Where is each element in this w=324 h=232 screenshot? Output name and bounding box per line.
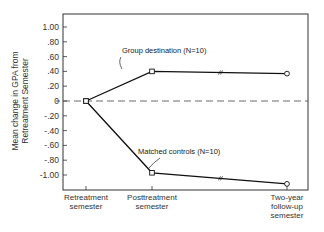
y-axis-title: Mean change in GPA from Retreatment Seme…: [10, 51, 30, 150]
y-tick-label: -.60: [44, 140, 59, 150]
chart: 1.00.80.60.40.200-.20-.40-.60-.80-1.00 R…: [0, 0, 324, 232]
y-tick-label: .60: [47, 52, 59, 62]
y-tick-label: 1.00: [42, 22, 59, 32]
data-point-marker: [285, 181, 290, 186]
x-tick-label: semester: [271, 211, 304, 220]
series-line-0: [86, 71, 287, 101]
y-tick-label: .20: [47, 81, 59, 91]
annotation-group-destination: Group destination (N=10): [122, 46, 207, 55]
series-line-1: [86, 101, 287, 184]
y-tick-label: .80: [47, 37, 59, 47]
y-tick-label: -.20: [44, 111, 59, 121]
data-point-marker: [285, 71, 290, 76]
y-tick-label: .40: [47, 66, 59, 76]
y-tick-label: -1.00: [40, 170, 60, 180]
x-axis: RetreatmentsemesterPosttreatmentsemester…: [64, 186, 304, 220]
annotation-arrow-matched-controls: [148, 158, 160, 169]
y-tick-label: -.80: [44, 155, 59, 165]
x-tick-label: Two-year: [271, 193, 304, 202]
y-tick-label: -.40: [44, 126, 59, 136]
plot-frame: [63, 14, 308, 190]
x-tick-label: Posttreatment: [127, 193, 178, 202]
x-tick-label: semester: [136, 202, 169, 211]
x-tick-label: follow-up: [271, 202, 304, 211]
y-axis-title-line1: Mean change in GPA from: [10, 51, 20, 150]
data-point-marker: [150, 69, 155, 74]
y-axis-title-line2: Retreatment Semester: [20, 58, 30, 144]
data-point-marker: [150, 170, 155, 175]
x-tick-label: Retreatment: [64, 193, 109, 202]
annotation-arrow-group-destination: [120, 57, 122, 69]
series-lines: [84, 69, 290, 186]
x-tick-label: semester: [70, 202, 103, 211]
annotation-matched-controls: Matched controls (N=10): [138, 147, 221, 156]
data-point-marker: [84, 99, 89, 104]
